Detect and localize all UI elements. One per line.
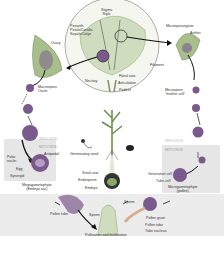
label-microgametophyte: Microgametophyte (pollen): [168, 185, 198, 193]
label-synergid: Synergid: [10, 174, 24, 178]
caption-pollination: Pollination and fertilization: [85, 233, 127, 237]
label-antipodal: Antipodal: [44, 152, 59, 156]
label-stigma-style: Stigma Style: [101, 8, 112, 16]
label-articulation: Articulation: [118, 81, 136, 85]
label-female-mitosis: MITOSIS: [39, 144, 57, 149]
label-sperm-left: Sperm: [89, 213, 100, 217]
label-ovary: Ovary: [51, 41, 61, 45]
label-filament: Filament: [150, 63, 164, 67]
label-female-meiosis: MEIOSIS: [39, 136, 57, 141]
diagram-graphics: [0, 0, 224, 265]
label-seed-coat: Seed coat: [82, 171, 98, 175]
label-microsporangium: Microsporangium: [166, 24, 194, 28]
label-megaspore: Macrospore Ovule: [38, 85, 57, 93]
label-endosperm: Endosperm: [78, 178, 96, 182]
label-male-meiosis: MEIOSIS: [165, 138, 183, 143]
label-germinating-seed: Germinating seed: [70, 152, 98, 156]
label-floral-axis: Floral axis: [119, 74, 135, 78]
label-sperm-right: Sperm: [124, 200, 135, 204]
label-tube-nucleus: Tube nucleus: [145, 229, 166, 233]
label-pollen-tube-right: Pollen tube: [145, 223, 163, 227]
label-megagametophyte: Megagametophyte (Embryo sac): [22, 183, 52, 191]
label-pedicel: Pedicel: [119, 88, 131, 92]
label-polar-nuclei: Polar nuclei: [7, 155, 16, 163]
label-tube-cell: Tube cell: [156, 179, 170, 183]
label-male-mitosis: MITOSIS: [165, 147, 183, 152]
label-pollen-grain: Pollen grain: [146, 216, 165, 220]
label-anther: Anther: [190, 31, 201, 35]
label-generative-cell: Generative cell: [148, 172, 172, 176]
label-nectary: Nectary: [85, 79, 97, 83]
label-egg: Egg: [16, 167, 22, 171]
label-pollen-tube-left: Pollen tube: [50, 212, 68, 216]
label-microspore: Microspore "mother cell": [165, 88, 185, 96]
label-perianth: Perianth Petals/Corolla Sepals/Calyx: [70, 24, 92, 36]
label-embryo: Embryo: [85, 186, 97, 190]
